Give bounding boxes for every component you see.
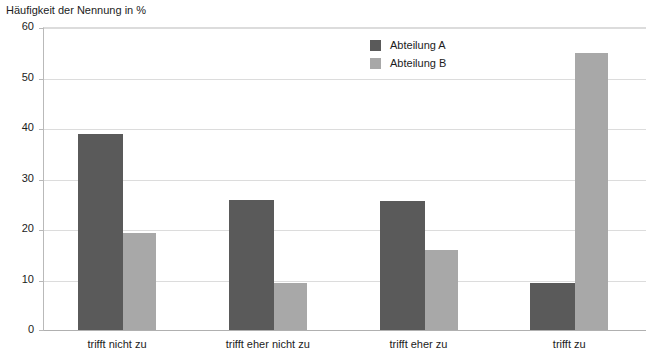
x-axis-label: trifft eher nicht zu	[226, 338, 310, 351]
x-axis-label: trifft zu	[553, 338, 586, 351]
bar-a	[380, 201, 425, 330]
bar-groups	[43, 27, 646, 330]
y-axis-label-20: 20	[0, 223, 34, 234]
y-axis-label-50: 50	[0, 72, 34, 83]
bar-a	[530, 283, 575, 330]
y-axis-label-0: 0	[0, 324, 34, 335]
bar-chart: Häufigkeit der Nennung in % 010203040506…	[0, 0, 653, 363]
bar-a	[78, 134, 123, 330]
y-axis-label-60: 60	[0, 21, 34, 32]
gridline-0	[44, 330, 646, 331]
y-tick-0	[39, 330, 44, 331]
bar-b	[425, 250, 458, 330]
x-axis-labels: trifft nicht zutrifft eher nicht zutriff…	[43, 338, 646, 358]
chart-legend: Abteilung AAbteilung B	[370, 36, 530, 72]
bar-b	[123, 233, 156, 330]
legend-swatch-icon	[370, 40, 381, 51]
bar-group	[530, 27, 608, 330]
legend-swatch-icon	[370, 58, 381, 69]
legend-label: Abteilung A	[390, 40, 446, 51]
legend-label: Abteilung B	[390, 58, 446, 69]
chart-title: Häufigkeit der Nennung in %	[6, 4, 146, 17]
bar-group	[229, 27, 307, 330]
y-axis-label-10: 10	[0, 274, 34, 285]
bar-b	[575, 53, 608, 330]
legend-item[interactable]: Abteilung B	[370, 54, 530, 72]
x-axis-label: trifft nicht zu	[87, 338, 146, 351]
x-axis-label: trifft eher zu	[390, 338, 448, 351]
bar-b	[274, 283, 307, 330]
y-axis-label-40: 40	[0, 122, 34, 133]
bar-group	[78, 27, 156, 330]
bar-group	[380, 27, 458, 330]
legend-item[interactable]: Abteilung A	[370, 36, 530, 54]
y-axis-labels: 0102030405060	[0, 27, 38, 330]
bar-a	[229, 200, 274, 330]
y-axis-label-30: 30	[0, 173, 34, 184]
